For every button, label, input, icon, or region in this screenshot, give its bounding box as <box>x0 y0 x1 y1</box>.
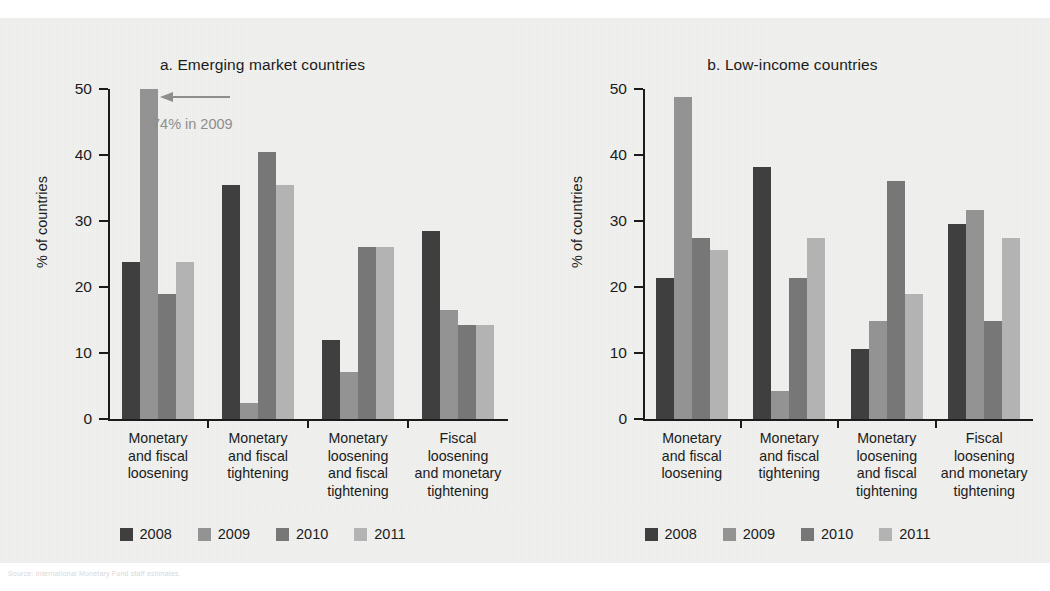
y-axis-tick <box>99 220 108 222</box>
chart-b-y-axis-title: % of countries <box>569 176 585 268</box>
legend-label: 2008 <box>665 526 697 542</box>
legend-item-2009[interactable]: 2009 <box>198 526 250 542</box>
chart-b-title: b. Low-income countries <box>525 56 1050 74</box>
y-axis-tick-label: 50 <box>610 80 627 98</box>
legend-item-2008[interactable]: 2008 <box>645 526 697 542</box>
legend-label: 2009 <box>743 526 775 542</box>
bar-2009-group-4 <box>966 210 984 419</box>
y-axis-tick <box>634 88 643 90</box>
legend-swatch-icon <box>879 528 892 541</box>
chart-panel-b: b. Low-income countries % of countries 0… <box>525 18 1050 563</box>
y-axis-tick-label: 10 <box>75 344 92 362</box>
chart-b-legend: 2008200920102011 <box>525 526 1050 542</box>
chart-a-plot-area: 01020304050 <box>108 89 508 419</box>
y-axis-tick <box>634 220 643 222</box>
y-axis-tick <box>99 286 108 288</box>
chart-a-y-axis-line <box>108 89 110 420</box>
figure-root: a. Emerging market countries % of countr… <box>0 0 1050 591</box>
y-axis-tick-label: 10 <box>610 344 627 362</box>
chart-a-y-axis-title: % of countries <box>34 176 50 268</box>
bar-2008-group-4 <box>948 224 966 419</box>
y-axis-tick <box>634 418 643 420</box>
legend-item-2008[interactable]: 2008 <box>120 526 172 542</box>
x-axis-category-label: Monetary and fiscal loosening <box>108 430 208 483</box>
legend-label: 2011 <box>899 526 930 542</box>
bar-2011-group-2 <box>807 238 825 420</box>
bar-2010-group-2 <box>789 278 807 419</box>
x-axis-category-label: Monetary and fiscal tightening <box>208 430 308 483</box>
bar-2010-group-4 <box>458 325 476 419</box>
bar-2008-group-2 <box>222 185 240 419</box>
bar-2010-group-1 <box>158 294 176 419</box>
y-axis-tick <box>99 418 108 420</box>
bar-2010-group-1 <box>692 238 710 420</box>
bar-2010-group-3 <box>887 181 905 419</box>
legend-label: 2011 <box>374 526 405 542</box>
x-axis-group-separator <box>935 419 937 428</box>
bar-2009-group-4 <box>440 310 458 419</box>
bar-2009-group-2 <box>771 391 789 419</box>
legend-swatch-icon <box>723 528 736 541</box>
legend-swatch-icon <box>801 528 814 541</box>
y-axis-tick <box>99 154 108 156</box>
y-axis-tick-label: 40 <box>610 146 627 164</box>
x-axis-category-label: Monetary loosening and fiscal tightening <box>838 430 936 500</box>
x-axis-category-label: Fiscal loosening and monetary tightening <box>408 430 508 500</box>
bar-2008-group-2 <box>753 167 771 419</box>
bar-2008-group-3 <box>322 340 340 419</box>
x-axis-category-label: Monetary and fiscal loosening <box>643 430 741 483</box>
bar-2011-group-4 <box>1002 238 1020 420</box>
source-note: Source: International Monetary Fund staf… <box>8 570 181 577</box>
y-axis-tick <box>99 352 108 354</box>
chart-b-plot-area: 01020304050 <box>643 89 1033 419</box>
x-axis-category-label: Fiscal loosening and monetary tightening <box>936 430 1034 500</box>
legend-label: 2008 <box>140 526 172 542</box>
bar-2010-group-2 <box>258 152 276 419</box>
y-axis-tick <box>634 286 643 288</box>
x-axis-group-separator <box>837 419 839 428</box>
chart-a-title: a. Emerging market countries <box>0 56 525 74</box>
bar-2009-group-1 <box>140 89 158 419</box>
bar-2011-group-3 <box>905 294 923 419</box>
x-axis-group-separator <box>307 419 309 428</box>
bar-2011-group-4 <box>476 325 494 419</box>
bar-2009-group-1 <box>674 97 692 419</box>
bar-2010-group-4 <box>984 321 1002 419</box>
bar-2008-group-3 <box>851 349 869 419</box>
legend-swatch-icon <box>276 528 289 541</box>
bar-2011-group-2 <box>276 185 294 419</box>
y-axis-tick-label: 30 <box>75 212 92 230</box>
legend-label: 2009 <box>218 526 250 542</box>
y-axis-tick-label: 0 <box>618 410 627 428</box>
x-axis-group-separator <box>207 419 209 428</box>
legend-swatch-icon <box>645 528 658 541</box>
bar-2010-group-3 <box>358 247 376 419</box>
y-axis-tick-label: 50 <box>75 80 92 98</box>
x-axis-category-label: Monetary loosening and fiscal tightening <box>308 430 408 500</box>
y-axis-tick-label: 20 <box>610 278 627 296</box>
legend-item-2010[interactable]: 2010 <box>276 526 328 542</box>
legend-item-2011[interactable]: 2011 <box>879 526 930 542</box>
chart-a-legend: 2008200920102011 <box>0 526 525 542</box>
y-axis-tick-label: 30 <box>610 212 627 230</box>
x-axis-group-separator <box>407 419 409 428</box>
y-axis-tick-label: 0 <box>83 410 92 428</box>
legend-item-2011[interactable]: 2011 <box>354 526 405 542</box>
bar-2008-group-1 <box>122 262 140 419</box>
legend-swatch-icon <box>198 528 211 541</box>
legend-label: 2010 <box>296 526 328 542</box>
bar-2008-group-1 <box>656 278 674 419</box>
legend-label: 2010 <box>821 526 853 542</box>
chart-panel-a: a. Emerging market countries % of countr… <box>0 18 525 563</box>
bar-2009-group-3 <box>340 372 358 419</box>
bar-2009-group-2 <box>240 403 258 419</box>
legend-swatch-icon <box>120 528 133 541</box>
y-axis-tick <box>99 88 108 90</box>
legend-item-2010[interactable]: 2010 <box>801 526 853 542</box>
y-axis-tick-label: 40 <box>75 146 92 164</box>
annotation-arrow-icon <box>160 89 230 101</box>
legend-item-2009[interactable]: 2009 <box>723 526 775 542</box>
bar-2011-group-1 <box>710 250 728 419</box>
legend-swatch-icon <box>354 528 367 541</box>
y-axis-tick <box>634 352 643 354</box>
